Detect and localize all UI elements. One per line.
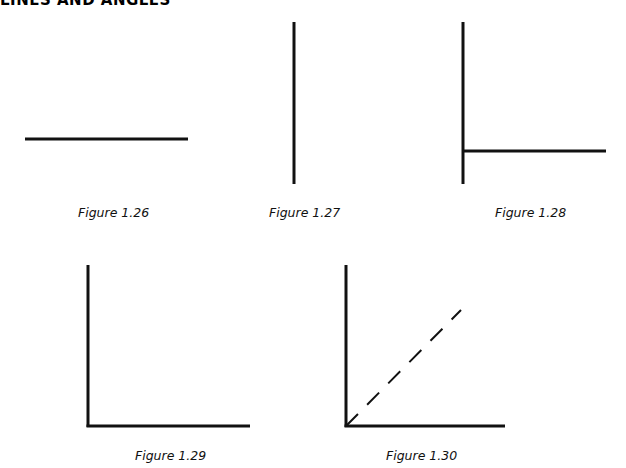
caption-figure-1-27: Figure 1.27 [269, 205, 340, 220]
caption-figure-1-30: Figure 1.30 [386, 448, 457, 463]
figure-1-30 [345, 265, 506, 427]
figures-canvas [0, 0, 626, 468]
caption-figure-1-26: Figure 1.26 [78, 205, 149, 220]
caption-figure-1-28: Figure 1.28 [495, 205, 566, 220]
figure-1-28 [463, 22, 606, 184]
dashed-bisector-ray [346, 310, 461, 426]
figure-1-29 [87, 265, 251, 427]
caption-figure-1-29: Figure 1.29 [135, 448, 206, 463]
